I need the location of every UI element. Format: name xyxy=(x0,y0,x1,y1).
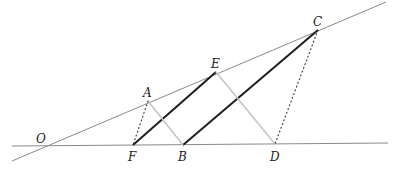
segment-ED xyxy=(216,72,275,144)
label-E: E xyxy=(210,57,220,71)
segments xyxy=(133,30,318,145)
slanted-ray xyxy=(12,2,386,161)
label-A: A xyxy=(142,86,152,100)
horizontal-ray xyxy=(12,143,388,146)
segment-AB xyxy=(148,101,183,145)
base-lines xyxy=(12,2,388,161)
label-F: F xyxy=(127,150,137,164)
label-B: B xyxy=(177,150,187,164)
label-C: C xyxy=(313,15,322,29)
segment-BC xyxy=(183,30,318,145)
geometry-diagram: O A E C F B D xyxy=(0,0,406,169)
label-D: D xyxy=(269,150,280,164)
label-O: O xyxy=(36,132,46,146)
